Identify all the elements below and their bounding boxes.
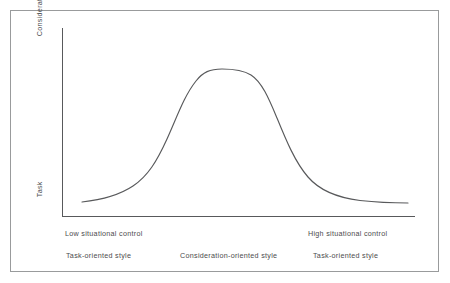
style-caption-center: Consideration-oriented style bbox=[180, 252, 277, 259]
figure-container: Consideration Task Low situational contr… bbox=[0, 0, 450, 283]
y-axis-label-task: Task bbox=[36, 181, 43, 197]
x-axis-label-low-situational-control: Low situational control bbox=[65, 230, 143, 237]
y-axis-label-consideration: Consideration bbox=[36, 0, 43, 36]
x-axis-label-high-situational-control: High situational control bbox=[308, 230, 387, 237]
style-caption-left: Task-oriented style bbox=[66, 252, 131, 259]
chart-plot-area bbox=[0, 0, 450, 283]
leadership-effectiveness-curve bbox=[82, 69, 408, 203]
style-caption-right: Task-oriented style bbox=[313, 252, 378, 259]
